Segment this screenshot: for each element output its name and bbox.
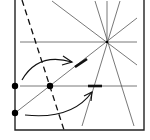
star-ray-crease bbox=[52, 1, 137, 65]
valley-fold-line bbox=[22, 0, 64, 130]
origami-diagram bbox=[0, 0, 150, 140]
lower-swing-arrow bbox=[25, 92, 92, 116]
left-lower-point bbox=[12, 110, 18, 116]
star-center-point bbox=[106, 41, 109, 44]
diagonal-target-mark bbox=[75, 59, 87, 67]
dashed-fold-line bbox=[22, 0, 64, 130]
arrow-shaft bbox=[25, 92, 92, 116]
left-upper-point bbox=[12, 83, 18, 89]
intersection-point bbox=[47, 83, 53, 89]
